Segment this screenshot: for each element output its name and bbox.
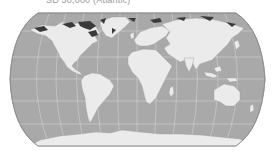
world-map [0,0,273,152]
